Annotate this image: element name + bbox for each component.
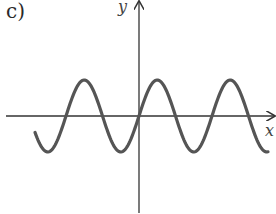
y-axis-label: y: [117, 0, 128, 16]
sine-chart: y x: [0, 0, 276, 214]
x-axis-label: x: [265, 121, 274, 140]
